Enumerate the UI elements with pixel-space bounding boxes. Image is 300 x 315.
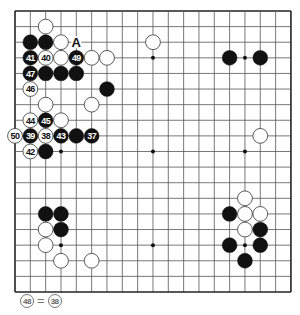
black-stone xyxy=(38,144,53,159)
black-stone-icon xyxy=(54,222,69,237)
white-stone xyxy=(38,97,53,112)
black-stone xyxy=(222,50,237,65)
white-stone-icon xyxy=(238,222,253,237)
white-stone xyxy=(238,207,253,222)
black-stone-icon xyxy=(222,207,237,222)
black-stone xyxy=(253,50,268,65)
white-stone-38-icon: 38 xyxy=(48,294,62,308)
star-point xyxy=(243,56,247,60)
black-stone-icon xyxy=(38,144,53,159)
star-point xyxy=(243,243,247,247)
white-stone xyxy=(38,19,53,34)
white-stone-38: 38 xyxy=(38,128,53,143)
black-stone xyxy=(54,207,69,222)
black-stone xyxy=(69,66,84,81)
black-stone-icon xyxy=(253,50,268,65)
white-stone-icon xyxy=(38,97,53,112)
white-stone-icon xyxy=(238,207,253,222)
markers-layer: A xyxy=(71,35,81,50)
white-stone-46: 46 xyxy=(23,82,38,97)
white-stone-icon xyxy=(146,35,161,50)
black-stone-icon xyxy=(69,66,84,81)
black-stone-icon xyxy=(222,238,237,253)
black-stone xyxy=(23,35,38,50)
star-point xyxy=(243,149,247,153)
white-stone-icon xyxy=(38,222,53,237)
white-stone-icon xyxy=(100,50,115,65)
black-stone xyxy=(69,128,84,143)
move-number: 41 xyxy=(26,53,35,63)
black-stone-41: 41 xyxy=(23,50,38,65)
white-stone-42: 42 xyxy=(23,144,38,159)
white-stone-icon xyxy=(253,207,268,222)
black-stone-43: 43 xyxy=(54,128,69,143)
move-number: 39 xyxy=(26,131,35,141)
white-stone xyxy=(54,35,69,50)
white-stone xyxy=(84,253,99,268)
move-number: 47 xyxy=(26,69,35,79)
white-stone-icon xyxy=(54,253,69,268)
black-stone xyxy=(54,222,69,237)
white-stone xyxy=(253,128,268,143)
black-stone-icon xyxy=(253,222,268,237)
white-stone-icon xyxy=(54,50,69,65)
white-stone xyxy=(38,238,53,253)
white-stone xyxy=(54,253,69,268)
white-stone-50: 50 xyxy=(8,128,23,143)
move-number: 46 xyxy=(26,84,35,94)
star-point xyxy=(151,56,155,60)
black-stone xyxy=(38,207,53,222)
white-stone xyxy=(238,191,253,206)
white-stone xyxy=(84,50,99,65)
black-stone-icon xyxy=(38,66,53,81)
black-stone-icon xyxy=(38,207,53,222)
white-stone xyxy=(238,222,253,237)
black-stone-icon xyxy=(54,207,69,222)
black-stone-45: 45 xyxy=(38,113,53,128)
white-stone xyxy=(253,207,268,222)
white-stone-48-icon: 48 xyxy=(20,294,34,308)
black-stone xyxy=(253,222,268,237)
black-stone-icon xyxy=(100,82,115,97)
black-stone-49: 49 xyxy=(69,50,84,65)
white-stone xyxy=(100,50,115,65)
white-stone-icon xyxy=(54,35,69,50)
black-stone xyxy=(253,238,268,253)
black-stone-icon xyxy=(38,35,53,50)
black-stone-icon xyxy=(222,50,237,65)
move-number: 37 xyxy=(87,131,96,141)
white-stone-icon xyxy=(38,19,53,34)
black-stone xyxy=(38,66,53,81)
move-number: 43 xyxy=(57,131,66,141)
white-stone xyxy=(84,97,99,112)
white-stone-icon xyxy=(38,238,53,253)
move-number: 42 xyxy=(26,147,35,157)
go-board[interactable]: 41404947464445503938433742 A xyxy=(0,0,300,295)
white-stone-44: 44 xyxy=(23,113,38,128)
white-stone xyxy=(38,222,53,237)
black-stone xyxy=(100,82,115,97)
white-stone xyxy=(146,35,161,50)
black-stone-icon xyxy=(69,128,84,143)
white-stone xyxy=(54,50,69,65)
move-number: 49 xyxy=(72,53,81,63)
black-stone-icon xyxy=(54,66,69,81)
star-point xyxy=(151,243,155,247)
move-number: 44 xyxy=(26,116,35,126)
white-stone xyxy=(54,113,69,128)
black-stone xyxy=(222,238,237,253)
black-stone xyxy=(238,253,253,268)
black-stone xyxy=(222,207,237,222)
star-point xyxy=(59,149,63,153)
black-stone xyxy=(54,66,69,81)
equals-sign: = xyxy=(36,294,46,308)
point-label-A: A xyxy=(72,35,82,50)
star-point xyxy=(59,243,63,247)
black-stone-47: 47 xyxy=(23,66,38,81)
black-stone xyxy=(38,35,53,50)
white-stone-icon xyxy=(84,253,99,268)
move-number: 45 xyxy=(41,116,50,126)
white-stone-40: 40 xyxy=(38,50,53,65)
move-number: 50 xyxy=(11,131,20,141)
black-stone-39: 39 xyxy=(23,128,38,143)
